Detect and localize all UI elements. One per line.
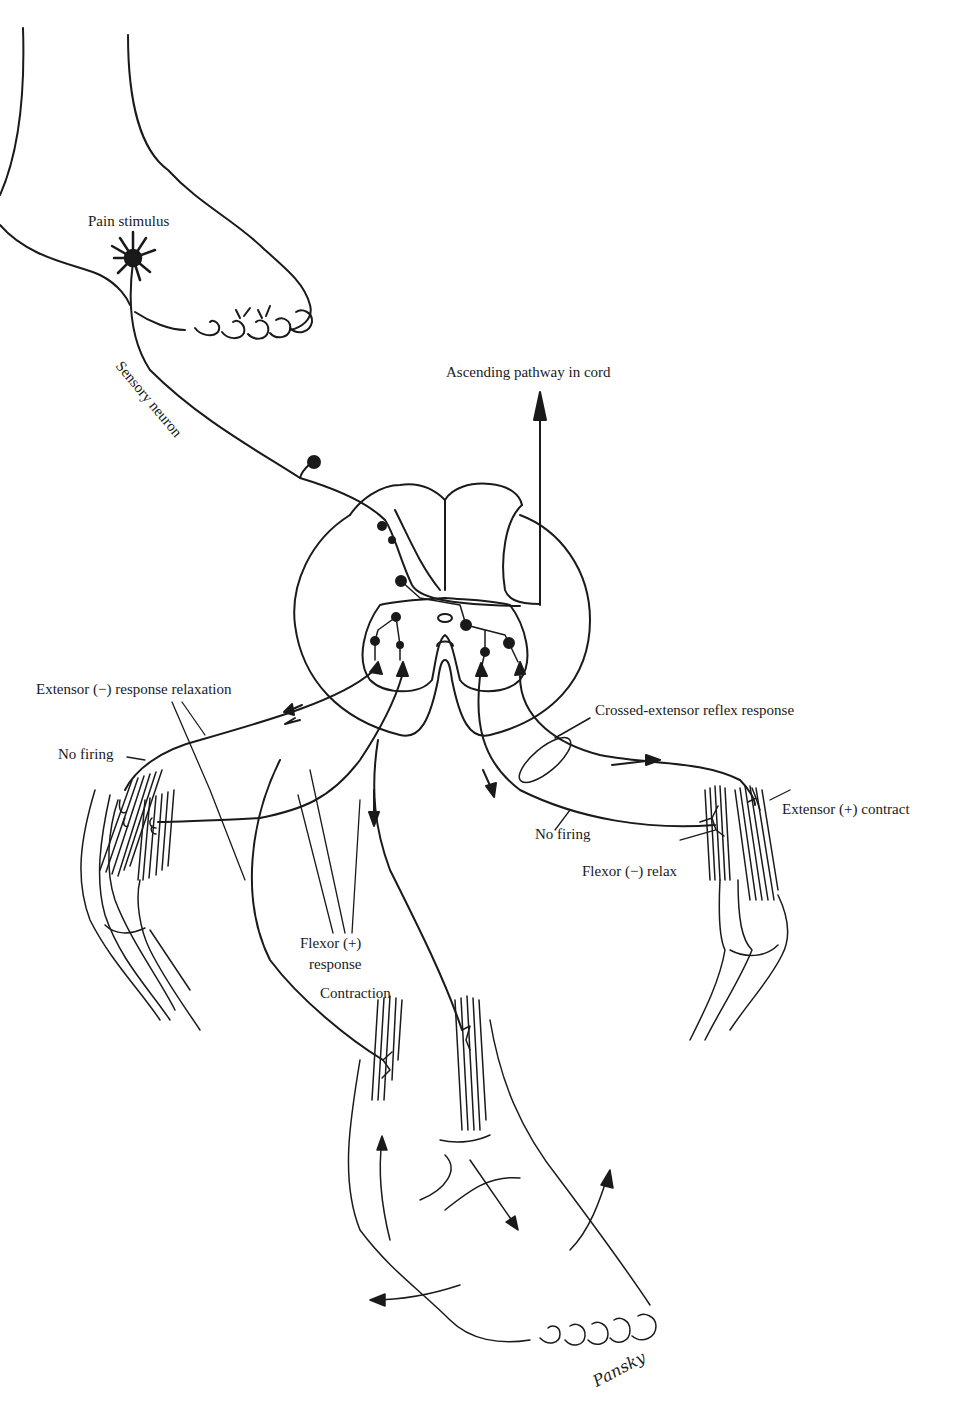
- ascending-pathway-label: Ascending pathway in cord: [446, 364, 611, 381]
- flexor-response-label-line2: response: [309, 956, 362, 973]
- lower-leg-foot: [348, 996, 656, 1345]
- interneuron-branches: [375, 581, 518, 665]
- no-firing-left-label: No firing: [58, 746, 113, 763]
- pain-stimulus-label: Pain stimulus: [88, 213, 169, 230]
- leader-lines: [127, 702, 790, 933]
- pain-stimulus-icon: [112, 232, 155, 280]
- flexor-response-label-line1: Flexor (+): [300, 935, 361, 952]
- ascending-pathway-arrow: [534, 392, 546, 605]
- left-limb: [81, 770, 200, 1030]
- contraction-label: Contraction: [320, 985, 391, 1002]
- spinal-cord-section: [294, 484, 590, 736]
- direction-arrows: [284, 704, 660, 826]
- extensor-relaxation-label: Extensor (−) response relaxation: [36, 681, 231, 698]
- sensory-neuron-fiber: [131, 262, 520, 606]
- stimulated-foot: [0, 28, 312, 339]
- flexor-relax-label: Flexor (−) relax: [582, 863, 677, 880]
- crossed-extensor-marker: [513, 718, 590, 790]
- crossed-extensor-reflex-diagram: Pain stimulus Sensory neuron Ascending p…: [0, 0, 961, 1408]
- crossed-extensor-label: Crossed-extensor reflex response: [595, 702, 794, 719]
- no-firing-right-label: No firing: [535, 826, 590, 843]
- right-limb: [690, 786, 788, 1040]
- extensor-contract-label: Extensor (+) contract: [782, 801, 910, 818]
